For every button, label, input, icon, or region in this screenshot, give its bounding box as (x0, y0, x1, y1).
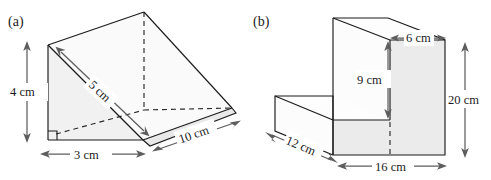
figure-b-right-front-face (390, 40, 445, 155)
figure-a-svg: 4 cm 5 cm 3 cm 10 cm (a) (0, 0, 491, 180)
figure-pair-illustration: 4 cm 5 cm 3 cm 10 cm (a) (0, 0, 491, 180)
figure-b-dim-6cm-label: 6 cm (406, 31, 431, 45)
figure-b-dim-12cm-arrow-upper (265, 132, 276, 143)
figure-b-lower-right-face (333, 120, 390, 155)
figure-a-dim-10cm-arrow-right (230, 121, 241, 130)
figure-b-dim-9cm-label: 9 cm (357, 73, 382, 87)
figure-b-dim-16cm-label: 16 cm (375, 160, 406, 174)
figure-a-label: (a) (8, 14, 24, 30)
figure-a-dim-3cm-label: 3 cm (74, 148, 99, 162)
figure-b-label: (b) (253, 14, 270, 30)
figure-a-dim-4cm-label: 4 cm (10, 85, 35, 99)
figure-b-dim-20cm-label: 20 cm (448, 93, 479, 107)
